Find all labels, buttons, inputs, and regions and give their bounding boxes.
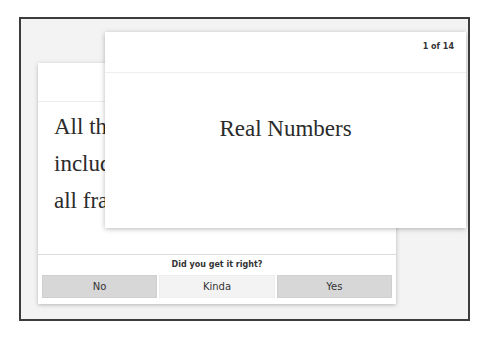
self-assessment-buttons: No Kinda Yes [42, 275, 392, 298]
front-card-header-divider [105, 72, 466, 73]
no-button[interactable]: No [42, 275, 157, 298]
self-assessment-prompt: Did you get it right? [38, 260, 396, 269]
flashcard-front[interactable]: 1 of 14 Real Numbers [105, 32, 466, 228]
flashcard-frame: All the includ all fra Did you get it ri… [19, 17, 470, 321]
yes-button[interactable]: Yes [277, 275, 392, 298]
card-counter: 1 of 14 [423, 42, 454, 51]
footer-divider [38, 254, 396, 255]
kinda-button[interactable]: Kinda [159, 275, 274, 298]
flashcard-term: Real Numbers [105, 116, 466, 142]
